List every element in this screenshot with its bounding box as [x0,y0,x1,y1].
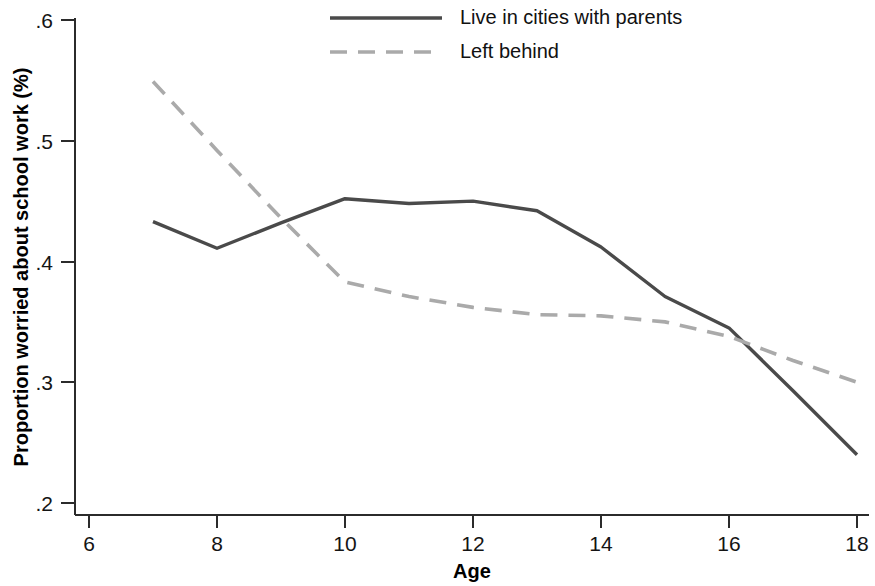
line-chart: Proportion worried about school work (%)… [0,0,875,586]
y-tick-label: .6 [35,9,53,32]
x-tick-label: 12 [461,532,484,555]
y-axis-title: Proportion worried about school work (%) [10,68,32,467]
legend-label-0: Live in cities with parents [460,6,682,28]
data-series-group [153,82,857,455]
y-axis-ticks: .2.3.4.5.6 [35,9,75,515]
x-tick-label: 6 [83,532,95,555]
x-tick-label: 16 [717,532,740,555]
y-tick-label: .3 [35,371,53,394]
x-tick-label: 18 [845,532,868,555]
y-tick-label: .5 [35,130,53,153]
x-tick-label: 10 [333,532,356,555]
y-tick-label: .4 [35,251,53,274]
chart-legend: Live in cities with parentsLeft behind [330,6,682,62]
x-tick-label: 8 [211,532,223,555]
series-line-0 [153,199,857,455]
x-axis-title: Age [453,560,491,582]
x-axis-ticks: 681012141618 [83,515,869,555]
y-tick-label: .2 [35,492,53,515]
axes [75,18,869,515]
chart-container: Proportion worried about school work (%)… [0,0,875,586]
legend-label-1: Left behind [460,40,559,62]
x-tick-label: 14 [589,532,613,555]
